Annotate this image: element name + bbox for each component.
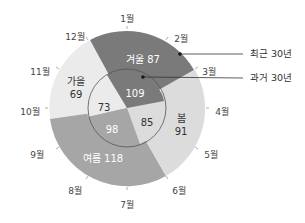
month-label-1: 1월 bbox=[120, 13, 134, 24]
outer-label-summer: 여름 118 bbox=[83, 153, 123, 164]
inner-label-winter: 109 bbox=[125, 88, 144, 99]
outer-label-spring-name: 봄 bbox=[177, 113, 186, 124]
legend-recent: 최근 30년 bbox=[178, 48, 292, 59]
month-label-4: 4월 bbox=[215, 106, 229, 117]
month-label-5: 5월 bbox=[204, 149, 218, 160]
inner-label-autumn: 73 bbox=[98, 102, 111, 113]
legend-past-label: 과거 30년 bbox=[250, 72, 292, 83]
outer-label-autumn-name: 가을 bbox=[67, 76, 85, 87]
outer-label-winter: 겨울 87 bbox=[126, 54, 160, 65]
month-label-10: 10월 bbox=[20, 106, 39, 117]
month-label-9: 9월 bbox=[30, 149, 44, 160]
outer-label-spring-value: 91 bbox=[175, 126, 188, 137]
month-label-2: 2월 bbox=[174, 33, 188, 44]
outer-label-autumn-value: 69 bbox=[70, 89, 83, 100]
legend-recent-label: 최근 30년 bbox=[250, 48, 292, 59]
month-label-8: 8월 bbox=[68, 185, 82, 196]
month-label-3: 3월 bbox=[202, 66, 216, 77]
month-label-7: 7월 bbox=[120, 199, 134, 210]
month-label-6: 6월 bbox=[172, 185, 186, 196]
inner-label-summer: 98 bbox=[106, 124, 119, 135]
month-label-12: 12월 bbox=[65, 31, 84, 42]
seasonal-donut-chart: 1월 2월 3월 4월 5월 6월 7월 8월 9월 10월 11월 12월 겨… bbox=[0, 0, 305, 223]
inner-label-spring: 85 bbox=[141, 117, 154, 128]
month-label-11: 11월 bbox=[30, 66, 49, 77]
